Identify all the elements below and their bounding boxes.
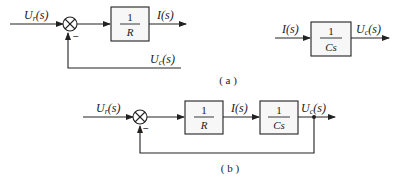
svg-text:R: R [200, 119, 208, 131]
svg-text:R: R [126, 26, 134, 38]
cs-output-label-a: Uc(s) [356, 22, 381, 37]
diagram-a: Ur(s) − 1 R I(s) Uc(s) I(s) [10, 7, 389, 87]
svg-text:1: 1 [328, 25, 334, 37]
block-1-over-r-b: 1 R [185, 101, 223, 134]
cs-input-label-a: I(s) [281, 22, 299, 36]
intermediate-label-b: I(s) [230, 101, 248, 115]
svg-text:Cs: Cs [273, 119, 285, 131]
caption-b: ( b ) [221, 162, 240, 175]
minus-sign-a: − [73, 31, 79, 42]
block-1-over-cs-a: 1 Cs [311, 22, 351, 56]
block-1-over-cs-b: 1 Cs [260, 101, 298, 134]
svg-text:Cs: Cs [325, 41, 337, 53]
output-label-a: I(s) [156, 8, 174, 22]
svg-text:1: 1 [201, 104, 207, 116]
input-label-a: Ur(s) [24, 8, 48, 23]
svg-text:1: 1 [276, 104, 282, 116]
caption-a: ( a ) [219, 74, 237, 87]
block-diagram-figure: Ur(s) − 1 R I(s) Uc(s) I(s) [0, 0, 393, 183]
input-label-b: Ur(s) [96, 101, 120, 116]
feedback-label-a: Uc(s) [150, 52, 175, 67]
block-1-over-r-a: 1 R [111, 7, 149, 41]
summing-junction-a [63, 17, 77, 31]
minus-sign-b: − [143, 123, 149, 134]
output-label-b: Uc(s) [301, 101, 326, 116]
diagram-b: Ur(s) − 1 R I(s) 1 Cs Uc(s) [83, 101, 335, 175]
svg-text:1: 1 [127, 11, 133, 23]
summing-junction-b [133, 110, 147, 124]
